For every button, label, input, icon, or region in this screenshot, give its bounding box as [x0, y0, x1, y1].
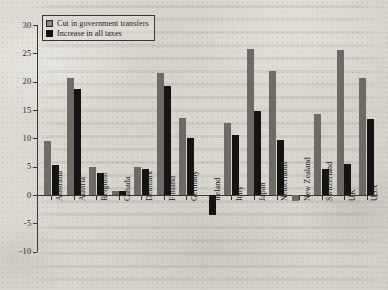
y-axis-tick [33, 223, 37, 224]
legend-item-taxes: Increase in all taxes [46, 28, 149, 38]
x-axis-tick [231, 196, 232, 200]
y-axis-tick [33, 110, 37, 111]
bar-transfers [157, 73, 164, 195]
x-axis-tick [344, 196, 345, 200]
x-axis-tick [299, 196, 300, 200]
bar-transfers [134, 167, 141, 195]
y-axis-tick-label: -5 [24, 218, 32, 228]
bar-group [67, 25, 82, 252]
x-axis-tick [141, 196, 142, 200]
x-axis-label-japan: Japan [258, 182, 267, 201]
x-axis-tick [51, 196, 52, 200]
bar-chart: 302520151050-5-10 AustraliaAustriaBelgiu… [0, 0, 388, 290]
x-axis-tick [164, 196, 165, 200]
x-axis-tick [254, 196, 255, 200]
y-axis-tick-label: 10 [22, 133, 31, 143]
x-axis-tick [367, 196, 368, 200]
bar-transfers [247, 49, 254, 195]
x-axis-label-switzerland: Switzerland [325, 162, 334, 201]
y-axis-tick [33, 25, 37, 26]
y-axis-tick [33, 53, 37, 54]
y-axis-tick [33, 138, 37, 139]
x-axis-label-italy: Italy [235, 186, 244, 201]
bar-group [224, 25, 239, 252]
legend-swatch-gray-icon [46, 20, 53, 27]
y-axis-tick-label: 5 [27, 161, 32, 171]
legend-swatch-black-icon [46, 30, 53, 37]
y-axis-tick [33, 82, 37, 83]
bar-transfers [112, 191, 119, 195]
bar-group [89, 25, 104, 252]
bar-group [179, 25, 194, 252]
y-axis-tick-label: 30 [22, 20, 31, 30]
bar-transfers [89, 167, 96, 195]
bar-group [292, 25, 307, 252]
x-axis-label-belgium: Belgium [100, 173, 109, 201]
bar-group [314, 25, 329, 252]
bar-transfers [292, 195, 299, 201]
x-axis-tick [277, 196, 278, 200]
x-axis-label-ireland: Ireland [213, 178, 222, 201]
bar-group [112, 25, 127, 252]
bar-taxes [367, 119, 374, 195]
x-axis-label-usa: USA [370, 185, 379, 201]
bar-transfers [359, 78, 366, 195]
x-axis-label-austria: Austria [78, 177, 87, 201]
bar-transfers [269, 71, 276, 195]
x-axis-tick [209, 196, 210, 200]
y-axis-tick [33, 167, 37, 168]
x-axis-label-denmark: Denmark [145, 171, 154, 201]
y-axis-tick-label: 25 [22, 48, 31, 58]
bar-group [269, 25, 284, 252]
bar-group [247, 25, 262, 252]
x-axis-tick [74, 196, 75, 200]
bar-transfers [67, 78, 74, 195]
x-axis-label-netherlands: Netherlands [280, 161, 289, 201]
plot-area [40, 25, 378, 252]
y-axis-tick-label: 0 [27, 190, 32, 200]
bar-group [202, 25, 217, 252]
x-axis-tick [322, 196, 323, 200]
bar-transfers [44, 141, 51, 195]
bar-group [157, 25, 172, 252]
bar-transfers [314, 114, 321, 195]
y-axis-tick-label: 20 [22, 76, 31, 86]
x-axis-label-canada: Canada [123, 176, 132, 201]
x-axis-label-new-zealand: New Zealand [303, 157, 312, 201]
x-axis-tick [96, 196, 97, 200]
x-axis-tick [186, 196, 187, 200]
x-axis-label-germany: Germany [190, 171, 199, 201]
y-axis-tick [33, 195, 37, 196]
bar-group [337, 25, 352, 252]
chart-legend: Cut in government transfers Increase in … [42, 15, 155, 41]
x-axis-tick [119, 196, 120, 200]
bar-group [359, 25, 374, 252]
bar-transfers [337, 50, 344, 195]
bar-group [44, 25, 59, 252]
legend-label-taxes: Increase in all taxes [57, 29, 122, 38]
bar-transfers [224, 123, 231, 195]
legend-item-transfers: Cut in government transfers [46, 18, 149, 28]
legend-label-transfers: Cut in government transfers [57, 19, 149, 28]
y-axis-tick [33, 252, 37, 253]
y-axis-tick-label: -10 [19, 246, 31, 256]
bar-transfers [179, 118, 186, 195]
y-axis-tick-label: 15 [22, 105, 31, 115]
bar-group [134, 25, 149, 252]
x-axis-label-australia: Australia [55, 171, 64, 201]
x-axis-label-finland: Finland [168, 176, 177, 201]
x-axis-label-uk: UK [348, 189, 357, 201]
